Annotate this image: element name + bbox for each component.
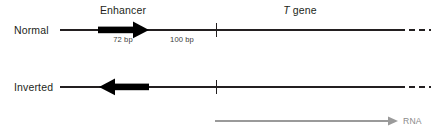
spacer-length-label: 100 bp xyxy=(170,36,194,44)
gene-title-suffix: gene xyxy=(290,4,317,16)
rna-arrow-head xyxy=(388,117,398,126)
normal-row-label: Normal xyxy=(14,25,49,36)
inverted-track xyxy=(60,79,431,96)
rna-arrow xyxy=(215,117,398,126)
enhancer-length-label: 72 bp xyxy=(113,36,133,44)
gene-title: T gene xyxy=(283,5,317,16)
gene-regulation-diagram: Normal Enhancer 72 bp 100 bp T gene Inve… xyxy=(0,0,438,136)
inverted-row-label: Inverted xyxy=(14,82,53,93)
inverted-enhancer-arrow xyxy=(99,79,149,96)
diagram-canvas xyxy=(0,0,438,136)
enhancer-title: Enhancer xyxy=(100,5,146,16)
rna-label: RNA xyxy=(403,117,422,126)
